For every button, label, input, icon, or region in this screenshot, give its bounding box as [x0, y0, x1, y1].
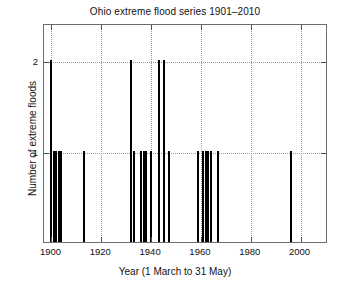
x-tick-1960	[201, 237, 202, 242]
plot-canvas	[44, 25, 326, 242]
bar	[290, 151, 292, 242]
bar	[197, 151, 199, 242]
chart-title: Ohio extreme flood series 1901–2010	[0, 6, 350, 17]
y-tick-right-2	[321, 62, 326, 63]
bar	[133, 151, 135, 242]
bar	[83, 151, 85, 242]
y-tick-1	[44, 153, 49, 154]
bar	[210, 151, 212, 242]
x-tick-label-1960: 1960	[189, 246, 210, 257]
x-tick-top-1900	[51, 25, 52, 30]
gridline-x-2000	[301, 25, 302, 242]
x-tick-label-1940: 1940	[140, 246, 161, 257]
y-tick-2	[44, 62, 49, 63]
gridline-y-2	[44, 62, 326, 63]
gridline-x-1980	[251, 25, 252, 242]
bar	[217, 151, 219, 242]
plot-area	[43, 24, 327, 243]
x-tick-1900	[51, 237, 52, 242]
x-tick-1920	[101, 237, 102, 242]
x-tick-label-2000: 2000	[289, 246, 310, 257]
gridline-x-1920	[101, 25, 102, 242]
x-tick-top-1960	[201, 25, 202, 30]
gridline-y-1	[44, 153, 326, 154]
bar	[168, 151, 170, 242]
x-tick-2000	[301, 237, 302, 242]
bar	[150, 151, 152, 242]
x-tick-label-1900: 1900	[40, 246, 61, 257]
x-tick-top-1980	[251, 25, 252, 30]
x-tick-label-1920: 1920	[90, 246, 111, 257]
x-tick-1980	[251, 237, 252, 242]
bar	[158, 60, 160, 243]
x-tick-top-1940	[151, 25, 152, 30]
x-axis-label: Year (1 March to 31 May)	[0, 266, 350, 277]
bar	[163, 60, 165, 243]
y-axis-label: Number of extreme floods	[27, 44, 38, 234]
x-tick-top-1920	[101, 25, 102, 30]
x-tick-label-1980: 1980	[239, 246, 260, 257]
bar	[60, 151, 62, 242]
x-tick-1940	[151, 237, 152, 242]
chart-figure: Ohio extreme flood series 1901–2010 1900…	[0, 0, 350, 296]
x-tick-top-2000	[301, 25, 302, 30]
bar	[145, 151, 147, 242]
y-tick-right-1	[321, 153, 326, 154]
